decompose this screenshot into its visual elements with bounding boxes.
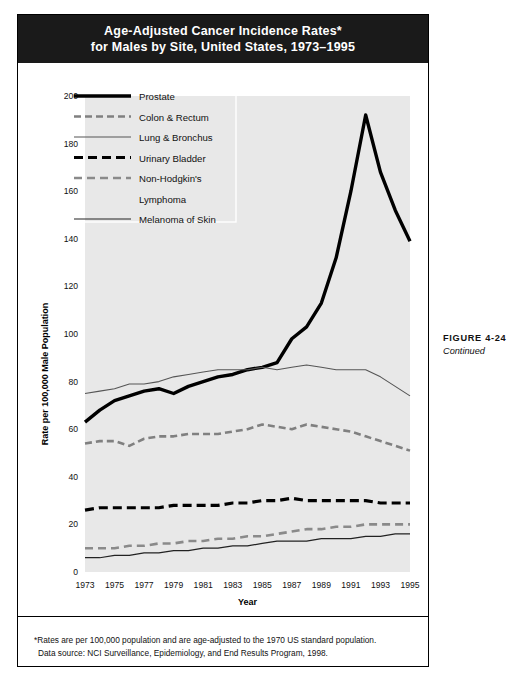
figure-number: FIGURE 4-24 (443, 332, 515, 345)
legend-label-colon_rectum: Colon & Rectum (139, 112, 209, 123)
y-tick-label: 120 (64, 281, 79, 291)
figure-title-line-1: Age-Adjusted Cancer Incidence Rates* (91, 23, 355, 39)
y-tick-label: 20 (68, 519, 78, 529)
figure-container: Age-Adjusted Cancer Incidence Rates* for… (17, 14, 429, 667)
legend-label-prostate: Prostate (139, 91, 175, 102)
legend-label-lung_bronchus: Lung & Bronchus (139, 132, 213, 143)
figure-title: Age-Adjusted Cancer Incidence Rates* for… (91, 23, 355, 55)
x-tick-label: 1995 (400, 580, 419, 590)
y-tick-label: 140 (64, 234, 79, 244)
y-tick-label: 160 (64, 186, 79, 196)
footnote-source: Data source: NCI Surveillance, Epidemiol… (34, 647, 412, 660)
footnote-rates: *Rates are per 100,000 population and ar… (34, 634, 412, 647)
x-axis-ticks: 1973197519771979198119831985198719891991… (75, 580, 419, 590)
legend-label-urinary_bladder: Urinary Bladder (139, 153, 206, 164)
x-tick-label: 1993 (371, 580, 390, 590)
x-tick-label: 1983 (223, 580, 242, 590)
incidence-line-chart: 020406080100120140160180200 197319751977… (18, 63, 428, 616)
y-tick-label: 0 (73, 567, 78, 577)
footnote-block: *Rates are per 100,000 population and ar… (18, 616, 428, 660)
figure-title-line-2: for Males by Site, United States, 1973–1… (91, 39, 355, 55)
figure-continued-label: Continued (443, 345, 515, 358)
y-tick-label: 180 (64, 139, 79, 149)
x-tick-label: 1991 (341, 580, 360, 590)
x-tick-label: 1977 (135, 580, 154, 590)
legend-label-melanoma: Melanoma of Skin (139, 214, 216, 225)
y-tick-label: 100 (64, 329, 79, 339)
x-tick-label: 1985 (253, 580, 272, 590)
x-tick-label: 1979 (164, 580, 183, 590)
chart-area: 020406080100120140160180200 197319751977… (18, 63, 428, 616)
legend-label-non_hodgkin: Non-Hodgkin's (139, 173, 202, 184)
x-tick-label: 1975 (105, 580, 124, 590)
margin-figure-caption: FIGURE 4-24 Continued (443, 332, 515, 358)
x-tick-label: 1981 (194, 580, 213, 590)
x-tick-label: 1973 (75, 580, 94, 590)
y-tick-label: 80 (68, 377, 78, 387)
x-tick-label: 1987 (282, 580, 301, 590)
plot-background-rect (85, 96, 410, 572)
figure-title-banner: Age-Adjusted Cancer Incidence Rates* for… (18, 15, 428, 63)
y-axis-ticks: 020406080100120140160180200 (64, 91, 79, 577)
y-axis-title: Rate per 100,000 Male Population (40, 303, 50, 446)
x-axis-title: Year (238, 597, 258, 607)
plot-background (85, 96, 410, 572)
y-tick-label: 60 (68, 424, 78, 434)
y-tick-label: 40 (68, 472, 78, 482)
legend-label-lymphoma-continued: Lymphoma (139, 194, 187, 205)
x-tick-label: 1989 (312, 580, 331, 590)
